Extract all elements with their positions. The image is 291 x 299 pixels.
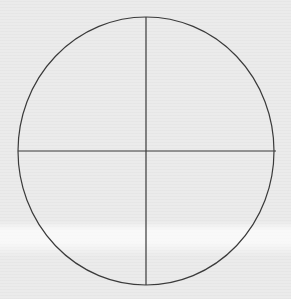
quartered-circle-diagram [0,0,291,299]
diagram-canvas [0,0,291,299]
